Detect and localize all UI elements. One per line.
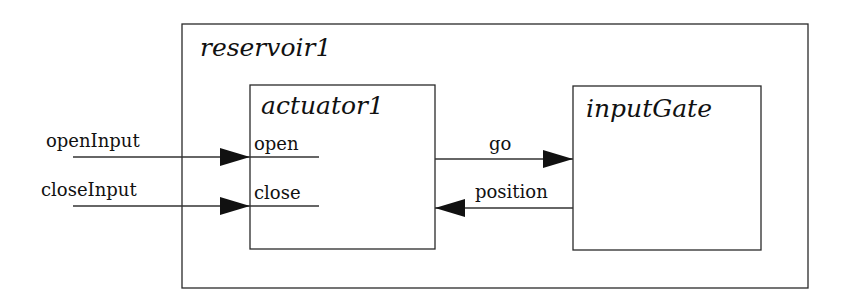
block-diagram: reservoir1 actuator1 open close inputGat…	[0, 0, 849, 304]
arrow-left-icon	[435, 199, 465, 217]
reservoir1-title: reservoir1	[200, 33, 331, 62]
go-label: go	[489, 133, 511, 154]
port-open-label: open	[254, 133, 299, 154]
arrow-right-icon	[220, 197, 250, 215]
closeInput-label: closeInput	[41, 179, 137, 200]
openInput-label: openInput	[46, 130, 140, 151]
inputGate-title: inputGate	[586, 94, 712, 123]
position-label: position	[475, 181, 548, 202]
arrow-right-icon	[543, 150, 573, 168]
port-close-label: close	[254, 182, 301, 203]
arrow-right-icon	[220, 148, 250, 166]
actuator1-title: actuator1	[261, 91, 384, 120]
